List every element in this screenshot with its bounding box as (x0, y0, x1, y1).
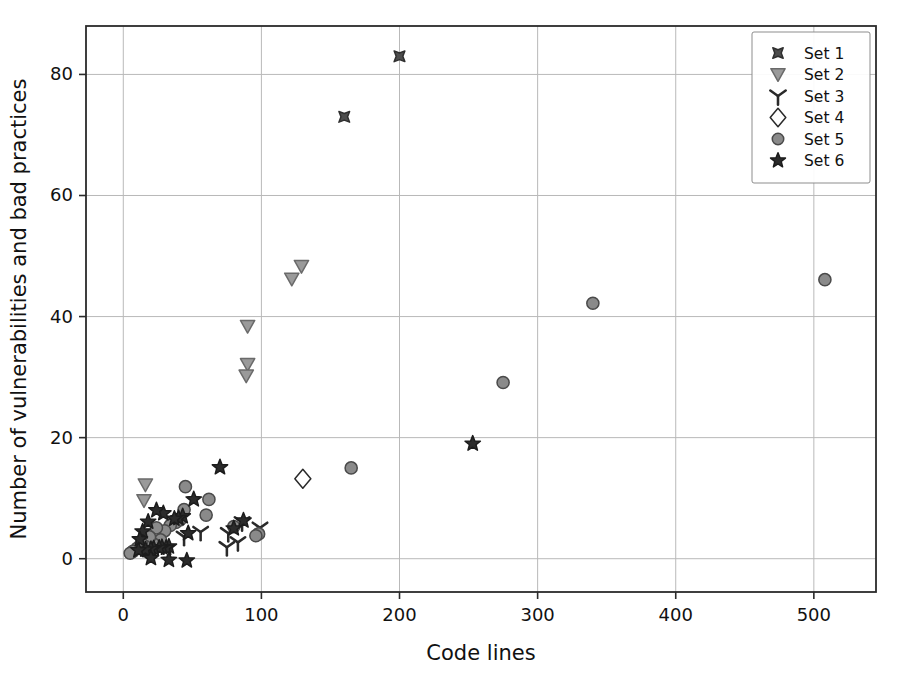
x-axis-title: Code lines (426, 641, 535, 665)
legend-label: Set 1 (804, 45, 844, 63)
scatter-plot-figure: 0100200300400500 020406080 Code lines Nu… (0, 0, 901, 690)
legend-label: Set 3 (804, 88, 844, 106)
data-point (250, 530, 262, 542)
data-point (497, 376, 509, 388)
x-tick-label: 200 (382, 604, 416, 625)
legend-label: Set 6 (804, 152, 844, 170)
y-tick-label: 60 (50, 184, 73, 205)
data-point (339, 111, 350, 122)
y-tick-label: 0 (62, 548, 73, 569)
plot-canvas: 0100200300400500 020406080 Code lines Nu… (0, 0, 901, 690)
x-tick-label: 400 (659, 604, 693, 625)
data-point (345, 462, 357, 474)
data-point (587, 297, 599, 309)
y-tick-label: 20 (50, 427, 73, 448)
x-tick-label: 0 (118, 604, 129, 625)
y-tick-label: 40 (50, 306, 73, 327)
x-tick-label: 300 (520, 604, 554, 625)
legend-marker-x-asterisk-icon (773, 48, 783, 58)
x-tick-label: 500 (797, 604, 831, 625)
data-point (203, 493, 215, 505)
legend-label: Set 2 (804, 66, 844, 84)
data-point (179, 481, 191, 493)
x-tick-label: 100 (244, 604, 278, 625)
y-axis-title: Number of vulnerabilities and bad practi… (7, 79, 31, 540)
legend-label: Set 5 (804, 131, 844, 149)
legend-label: Set 4 (804, 109, 844, 127)
legend[interactable]: Set 1Set 2Set 3Set 4Set 5Set 6 (752, 32, 870, 183)
data-point (394, 51, 405, 62)
y-tick-label: 80 (50, 63, 73, 84)
data-point (819, 274, 831, 286)
legend-marker-circle-icon (772, 133, 783, 144)
data-point (200, 509, 212, 521)
